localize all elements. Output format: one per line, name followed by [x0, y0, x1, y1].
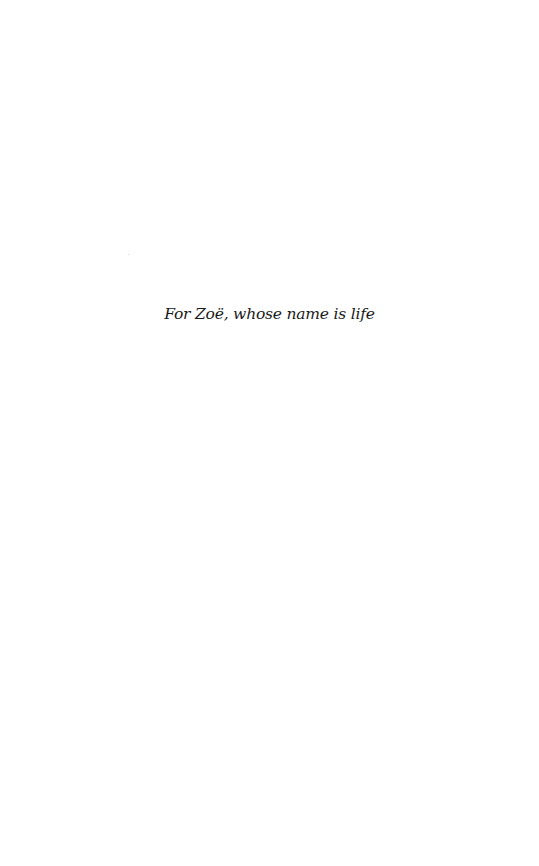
book-page: For Zoë, whose name is life [0, 0, 539, 866]
paper-speck [128, 254, 129, 255]
dedication-text: For Zoë, whose name is life [0, 304, 539, 324]
